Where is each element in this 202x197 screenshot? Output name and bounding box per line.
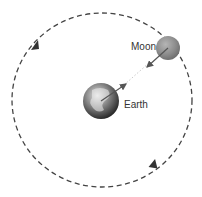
earth-moon-line <box>124 62 150 85</box>
earth-label: Earth <box>124 100 148 110</box>
moon-label: Moon <box>131 42 156 52</box>
orbit-diagram <box>0 0 202 197</box>
orbit-direction-arrow-right <box>149 158 159 168</box>
